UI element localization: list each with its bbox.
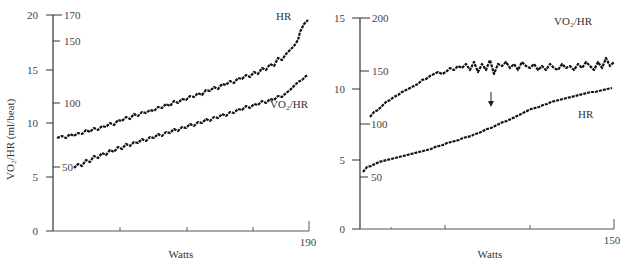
hr-label: HR — [276, 10, 292, 22]
tick-label: 150 — [372, 65, 389, 77]
tick-label: 5 — [33, 171, 39, 183]
tick-label: 10 — [27, 117, 39, 129]
hr-series-line — [363, 88, 612, 172]
vo2hr-series-line — [74, 75, 308, 168]
tick-label: 200 — [372, 12, 389, 24]
tick-label: 0 — [340, 223, 346, 235]
tick-label: 5 — [340, 154, 346, 166]
left-x-ticks: 190 — [120, 221, 317, 248]
tick-label: 20 — [27, 9, 39, 21]
right-y-ticks-hr: 200 150 100 50 — [360, 12, 389, 183]
x-end-label: 190 — [300, 236, 317, 248]
tick-label: 170 — [64, 9, 81, 21]
right-panel: 15 10 5 0 200 150 100 50 150 Watts — [334, 12, 621, 260]
tick-label: 100 — [371, 118, 388, 130]
x-axis-title: Watts — [478, 248, 503, 260]
right-x-ticks: 150 — [391, 219, 621, 246]
left-y-ticks-left: 20 15 10 5 0 — [27, 9, 53, 237]
down-arrow-icon — [488, 92, 494, 107]
left-y-ticks-hr: 170 150 100 50 — [53, 9, 81, 173]
tick-label: 10 — [334, 83, 346, 95]
hr-label: HR — [578, 108, 594, 120]
tick-label: 150 — [64, 35, 81, 47]
y-axis-title: VO₂/HR (ml/beat) — [4, 99, 17, 180]
figure: 20 15 10 5 0 170 150 100 50 190 Watts VO… — [0, 0, 627, 269]
tick-label: 50 — [62, 161, 74, 173]
vo2hr-label: VO₂/HR — [554, 15, 593, 27]
tick-label: 100 — [64, 97, 81, 109]
tick-label: 0 — [33, 225, 39, 237]
tick-label: 15 — [27, 64, 39, 76]
vo2hr-label: VO₂/HR — [270, 98, 309, 110]
x-axis-title: Watts — [169, 248, 194, 260]
tick-label: 15 — [334, 12, 346, 24]
x-end-label: 150 — [604, 234, 621, 246]
left-panel: 20 15 10 5 0 170 150 100 50 190 Watts VO… — [4, 9, 317, 260]
right-y-ticks-left: 15 10 5 0 — [334, 12, 360, 235]
hr-series-line — [57, 20, 308, 138]
tick-label: 50 — [371, 171, 383, 183]
